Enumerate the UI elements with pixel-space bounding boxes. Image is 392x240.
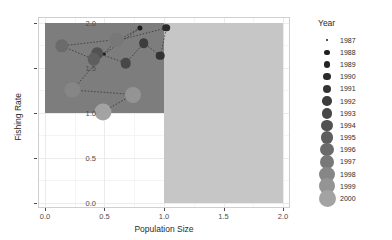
y-tick-mark bbox=[34, 23, 37, 24]
x-tick-label: 1.0 bbox=[149, 212, 179, 221]
data-point bbox=[156, 52, 165, 61]
legend-item-label: 1994 bbox=[340, 122, 356, 129]
y-tick-label: 1.0 bbox=[56, 108, 96, 117]
data-point bbox=[103, 53, 106, 56]
legend-item[interactable]: 1994 bbox=[318, 119, 388, 131]
y-tick-mark bbox=[34, 203, 37, 204]
legend-key-dot-icon bbox=[318, 73, 336, 81]
legend-item[interactable]: 1995 bbox=[318, 132, 388, 144]
x-tick-mark bbox=[283, 208, 284, 211]
x-axis-title: Population Size bbox=[38, 224, 290, 234]
x-tick-label: 0.0 bbox=[30, 212, 60, 221]
legend-item-label: 1996 bbox=[340, 146, 356, 153]
y-tick-label: 0.0 bbox=[56, 198, 96, 207]
x-tick-label: 1.5 bbox=[209, 212, 239, 221]
legend-item-label: 1993 bbox=[340, 110, 356, 117]
y-tick-mark bbox=[34, 113, 37, 114]
legend-key-dot-icon bbox=[318, 120, 336, 132]
legend-item[interactable]: 1992 bbox=[318, 95, 388, 107]
x-tick-mark bbox=[164, 208, 165, 211]
legend-key-dot-icon bbox=[318, 61, 336, 67]
y-tick-label: 1.5 bbox=[56, 63, 96, 72]
legend-item[interactable]: 1990 bbox=[318, 71, 388, 83]
legend-key-dot-icon bbox=[318, 190, 336, 207]
legend-key-dot-icon bbox=[318, 108, 336, 119]
legend-item-label: 2000 bbox=[340, 195, 356, 202]
x-tick-mark bbox=[45, 208, 46, 211]
y-axis-title: Fishing Rate bbox=[13, 57, 23, 177]
legend-item-label: 1998 bbox=[340, 171, 356, 178]
legend-item-label: 1990 bbox=[340, 73, 356, 80]
data-point bbox=[121, 58, 132, 69]
legend-item[interactable]: 1993 bbox=[318, 107, 388, 119]
legend-item-label: 1991 bbox=[340, 85, 356, 92]
y-tick-label: 2.0 bbox=[56, 18, 96, 27]
data-point bbox=[95, 103, 112, 120]
legend-key-dot-icon bbox=[318, 85, 336, 94]
legend-item-label: 1992 bbox=[340, 98, 356, 105]
legend-key-dot-icon bbox=[318, 131, 336, 143]
legend-key-dot-icon bbox=[318, 96, 336, 106]
legend-item[interactable]: 2000 bbox=[318, 192, 388, 204]
x-tick-mark bbox=[104, 208, 105, 211]
y-tick-label: 0.5 bbox=[56, 153, 96, 162]
legend-item[interactable]: 1991 bbox=[318, 83, 388, 95]
legend-item-label: 1987 bbox=[340, 37, 356, 44]
legend-item[interactable]: 1989 bbox=[318, 58, 388, 70]
x-tick-label: 2.0 bbox=[268, 212, 298, 221]
legend-item-label: 1995 bbox=[340, 134, 356, 141]
legend-item[interactable]: 1988 bbox=[318, 46, 388, 58]
legend-item-label: 1989 bbox=[340, 61, 356, 68]
legend-title: Year bbox=[318, 18, 388, 28]
data-point bbox=[139, 38, 149, 48]
y-tick-mark bbox=[34, 158, 37, 159]
legend-item-label: 1997 bbox=[340, 158, 356, 165]
legend-key-dot-icon bbox=[318, 39, 336, 42]
data-point bbox=[125, 87, 141, 103]
legend-item-label: 1988 bbox=[340, 49, 356, 56]
data-point bbox=[163, 24, 171, 32]
y-tick-mark bbox=[34, 68, 37, 69]
chart-root: 0.00.51.01.52.0 Fishing Rate 0.00.51.01.… bbox=[0, 0, 392, 240]
x-tick-label: 0.5 bbox=[89, 212, 119, 221]
x-tick-mark bbox=[224, 208, 225, 211]
legend: Year 19871988198919901991199219931994199… bbox=[318, 18, 388, 205]
legend-key-dot-icon bbox=[318, 50, 336, 55]
legend-item-label: 1999 bbox=[340, 183, 356, 190]
legend-entries: 1987198819891990199119921993199419951996… bbox=[318, 34, 388, 205]
legend-item[interactable]: 1987 bbox=[318, 34, 388, 46]
